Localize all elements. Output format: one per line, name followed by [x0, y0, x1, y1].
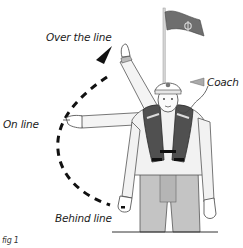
label-behind-line: Behind line [55, 212, 112, 224]
figure-caption: fig 1 [2, 236, 19, 245]
label-over-the-line: Over the line [46, 31, 112, 43]
flag-icon [163, 8, 204, 88]
label-on-line: On line [3, 118, 39, 130]
label-coach: Coach [207, 76, 239, 88]
coach-signal-diagram: Over the line On line Behind line Coach … [0, 0, 243, 248]
